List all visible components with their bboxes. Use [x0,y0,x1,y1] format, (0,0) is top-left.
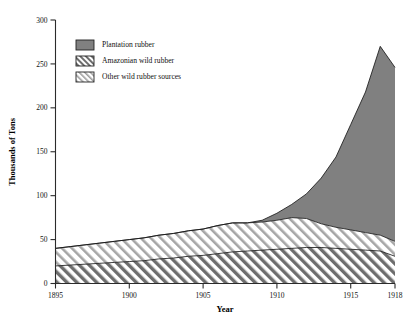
y-tick-label-150: 150 [36,147,48,156]
chart-legend: Plantation rubberAmazonian wild rubberOt… [76,40,181,82]
y-tick-label-200: 200 [36,103,48,112]
x-tick-label-1918: 1918 [388,291,403,300]
x-axis-title: Year [217,304,234,314]
legend-swatch-hatch-light [76,72,94,82]
y-tick-label-250: 250 [36,60,48,69]
x-tick-label-1900: 1900 [122,291,137,300]
y-tick-label-100: 100 [36,191,48,200]
legend-label-0: Plantation rubber [102,40,155,49]
y-axis-title: Thousands of Tons [7,117,17,186]
legend-label-2: Other wild rubber sources [102,72,181,81]
legend-swatch-hatch-dark [76,56,94,66]
x-tick-label-1905: 1905 [196,291,211,300]
x-tick-label-1915: 1915 [343,291,358,300]
y-tick-label-50: 50 [40,235,48,244]
y-tick-label-0: 0 [44,279,48,288]
x-tick-label-1910: 1910 [269,291,284,300]
x-axis-ticks: 189519001905191019151918 [48,284,403,300]
plot-area [56,46,396,283]
chart-canvas: 050100150200250300 189519001905191019151… [0,0,412,321]
x-tick-label-1895: 1895 [48,291,63,300]
legend-swatch-solid-gray [76,40,94,50]
legend-label-1: Amazonian wild rubber [102,56,175,65]
rubber-production-chart: 050100150200250300 189519001905191019151… [0,0,412,321]
y-axis-ticks: 050100150200250300 [36,16,55,289]
y-tick-label-300: 300 [36,16,48,25]
